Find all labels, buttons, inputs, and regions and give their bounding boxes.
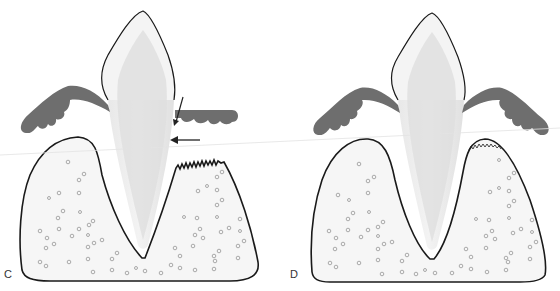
panel-c — [20, 11, 258, 281]
gingiva-right-d — [462, 88, 549, 135]
panel-label-d: D — [290, 268, 298, 280]
tooth-dentin-d — [407, 32, 456, 242]
panel-d — [311, 13, 548, 282]
periodontal-diagram — [0, 0, 560, 291]
tooth-dentin-c — [117, 30, 167, 240]
panel-label-c: C — [4, 268, 12, 280]
gingiva-left-d — [313, 88, 400, 135]
arrow-horizontal-c — [170, 136, 200, 144]
gingiva-right-c — [175, 110, 238, 124]
gingiva-left-c — [21, 86, 110, 133]
